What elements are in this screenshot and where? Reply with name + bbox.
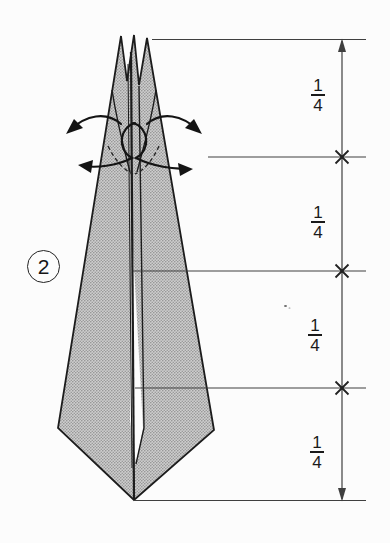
dimension-line — [336, 39, 349, 502]
dimension-label-quarter-4: 1 4 — [302, 435, 332, 470]
fraction-denominator: 4 — [312, 455, 321, 470]
fraction-denominator: 4 — [313, 225, 322, 240]
origami-instruction-page: 2 1 4 1 4 1 4 1 4 — [0, 0, 390, 543]
dimension-label-quarter-2: 1 4 — [303, 205, 333, 240]
paper-model-shape — [58, 35, 214, 500]
arrow-up-icon — [338, 39, 346, 53]
fraction-denominator: 4 — [313, 98, 322, 113]
step-number-badge: 2 — [27, 250, 60, 283]
print-speck — [284, 305, 287, 307]
dimension-label-quarter-1: 1 4 — [303, 78, 333, 113]
fraction-numerator: 1 — [313, 205, 322, 220]
dimension-label-quarter-3: 1 4 — [300, 318, 330, 353]
step-number: 2 — [38, 255, 50, 279]
fraction-numerator: 1 — [312, 435, 321, 450]
fraction-numerator: 1 — [310, 318, 319, 333]
fraction-numerator: 1 — [313, 78, 322, 93]
arrow-down-icon — [338, 488, 346, 502]
fraction-denominator: 4 — [310, 338, 319, 353]
